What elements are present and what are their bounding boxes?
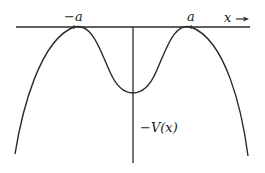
- potential-diagram: −a a x −V(x): [0, 0, 265, 173]
- label-neg-a: −a: [64, 9, 83, 24]
- label-x-axis: x: [224, 10, 232, 25]
- label-pos-a: a: [187, 9, 195, 24]
- label-curve: −V(x): [140, 120, 178, 135]
- potential-curve: [15, 26, 248, 156]
